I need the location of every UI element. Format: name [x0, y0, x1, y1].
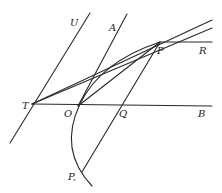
label-p1: P, — [67, 171, 76, 182]
label-u: U — [70, 17, 79, 28]
line-oa — [78, 14, 127, 106]
tangent-tp — [32, 20, 212, 104]
label-b: B — [197, 108, 205, 119]
line-tu — [10, 13, 90, 143]
label-p: P — [156, 45, 164, 56]
label-t: T — [22, 100, 30, 111]
line-p1-p — [82, 42, 160, 172]
chord-op — [78, 42, 160, 106]
line-t-p2 — [32, 28, 212, 104]
label-a: A — [108, 22, 116, 33]
parabola-diagram: U A P R T O Q B P, — [0, 0, 222, 193]
label-o: O — [64, 108, 72, 119]
label-q: Q — [119, 108, 127, 119]
label-r: R — [198, 45, 207, 56]
